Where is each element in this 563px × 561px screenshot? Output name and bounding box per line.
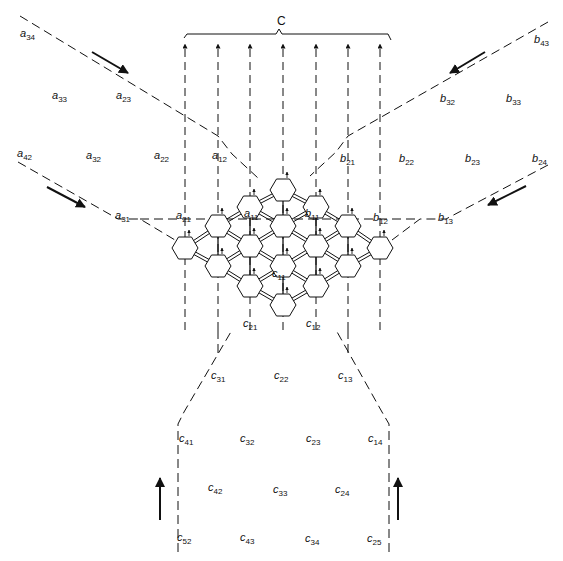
label-a32: a32 (86, 150, 101, 164)
processing-cell (270, 294, 296, 316)
label-c25: c25 (367, 533, 381, 547)
label-c43: c43 (240, 532, 254, 546)
label-c23: c23 (306, 433, 320, 447)
label-b32: b32 (440, 93, 455, 107)
label-c24: c24 (335, 484, 349, 498)
label-a42: a42 (17, 148, 32, 162)
processing-cell (270, 179, 296, 201)
label-c33: c33 (273, 484, 287, 498)
label-a34: a34 (20, 28, 35, 42)
label-c42: c42 (208, 482, 222, 496)
label-a21: a21 (176, 210, 191, 224)
label-b43: b43 (534, 34, 549, 48)
label-b33: b33 (506, 93, 521, 107)
label-a22: a22 (154, 150, 169, 164)
label-c12: c12 (306, 318, 320, 332)
label-b13: b13 (438, 212, 453, 226)
label-b11: b11 (305, 208, 319, 222)
label-c11: c11 (272, 268, 286, 282)
label-c21: c21 (243, 318, 257, 332)
direction-arrows (47, 52, 526, 520)
label-b12: b12 (373, 212, 388, 226)
label-b24: b24 (532, 153, 547, 167)
label-a12: a12 (212, 150, 227, 164)
label-a33: a33 (52, 90, 67, 104)
label-a23: a23 (116, 90, 131, 104)
label-c14: c14 (368, 433, 382, 447)
label-b23: b23 (465, 153, 480, 167)
label-c32: c32 (240, 433, 254, 447)
label-a31: a31 (115, 210, 130, 224)
result-brace (184, 29, 391, 40)
label-a11: a11 (244, 208, 258, 222)
label-c52: c52 (177, 532, 191, 546)
label-c34: c34 (305, 533, 319, 547)
label-c13: c13 (338, 370, 352, 384)
label-c22: c22 (274, 370, 288, 384)
label-c31: c31 (211, 370, 225, 384)
result-label: C (277, 14, 286, 28)
label-c41: c41 (179, 433, 193, 447)
label-b21: b21 (340, 153, 355, 167)
label-b22: b22 (399, 153, 414, 167)
